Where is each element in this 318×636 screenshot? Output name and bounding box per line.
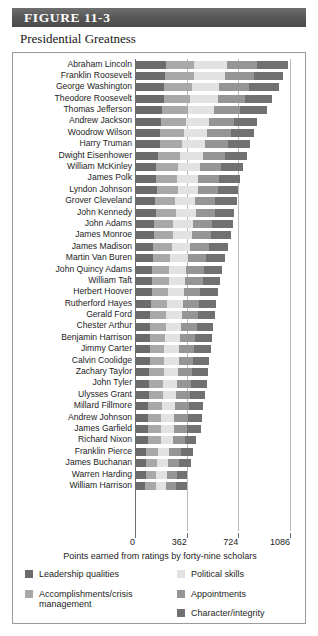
stacked-bar	[135, 231, 231, 239]
chart-row: Woodrow Wilson	[13, 127, 307, 138]
bar-segment	[188, 106, 214, 114]
legend-item: Accomplishments/crisis management	[25, 589, 161, 610]
chart-row: Millard Fillmore	[13, 401, 307, 412]
bar-segment	[185, 277, 202, 285]
bar-segment	[165, 72, 193, 80]
stacked-bar	[135, 448, 193, 456]
bar-segment	[135, 345, 150, 353]
bar-segment	[221, 163, 243, 171]
bar-segment	[178, 368, 193, 376]
bar-segment	[162, 402, 175, 410]
bar-segment	[188, 414, 202, 422]
bar-segment	[161, 414, 174, 422]
bar-segment	[135, 95, 164, 103]
bar-segment	[181, 448, 194, 456]
bar-segment	[257, 61, 288, 69]
bar-segment	[177, 471, 187, 479]
bar-segment	[135, 197, 155, 205]
row-label: Calvin Coolidge	[72, 355, 132, 366]
legend-label: Appointments	[191, 589, 246, 600]
bar-segment	[164, 345, 179, 353]
chart-row: John Tyler	[13, 378, 307, 389]
bar-segment	[191, 380, 206, 388]
bar-segment	[174, 425, 187, 433]
stacked-bar	[135, 334, 212, 342]
chart-row: Theodore Roosevelt	[13, 93, 307, 104]
row-label: Grover Cleveland	[65, 195, 132, 206]
stacked-bar	[135, 288, 218, 296]
bar-segment	[135, 414, 148, 422]
stacked-bar	[135, 459, 191, 467]
bar-segment	[215, 209, 234, 217]
bar-segment	[164, 368, 178, 376]
chart-row: Lyndon Johnson	[13, 184, 307, 195]
bar-segment	[176, 209, 196, 217]
bar-segment	[135, 288, 152, 296]
bar-segment	[184, 129, 207, 137]
bar-segment	[161, 436, 173, 444]
bar-segment	[135, 209, 156, 217]
stacked-bar	[135, 220, 233, 228]
bar-segment	[225, 152, 247, 160]
chart-row: Ulysses Grant	[13, 389, 307, 400]
bar-segment	[160, 129, 184, 137]
bar-segment	[190, 243, 209, 251]
bar-segment	[211, 231, 231, 239]
bar-segment	[148, 414, 161, 422]
bar-segment	[180, 334, 195, 342]
tick-label: 362	[172, 537, 188, 547]
stacked-bar	[135, 72, 283, 80]
bar-segment	[212, 220, 232, 228]
chart-row: James Buchanan	[13, 458, 307, 469]
stacked-bar	[135, 106, 267, 114]
stacked-bar	[135, 277, 220, 285]
bar-segment	[187, 425, 201, 433]
bar-segment	[150, 323, 165, 331]
chart-row: Chester Arthur	[13, 321, 307, 332]
bar-segment	[193, 357, 209, 365]
legend-swatch-icon	[177, 570, 185, 578]
chart-row: George Washington	[13, 82, 307, 93]
row-label: Andrew Johnson	[68, 412, 132, 423]
stacked-bar	[135, 197, 237, 205]
row-label: Gerald Ford	[86, 309, 132, 320]
bar-segment	[135, 83, 164, 91]
bar-segment	[190, 95, 218, 103]
bar-segment	[204, 266, 222, 274]
bar-segment	[205, 140, 228, 148]
bar-segment	[183, 300, 199, 308]
legend-label: Character/integrity	[191, 608, 265, 619]
bar-segment	[167, 300, 183, 308]
bar-segment	[198, 175, 219, 183]
bar-segment	[166, 311, 182, 319]
chart-row: James Madison	[13, 241, 307, 252]
bar-segment	[206, 254, 224, 262]
legend-swatch-icon	[25, 590, 33, 598]
bar-rows: Abraham LincolnFranklin RooseveltGeorge …	[13, 59, 307, 492]
bar-segment	[161, 425, 174, 433]
row-label: John Quincy Adams	[56, 264, 132, 275]
bar-segment	[135, 471, 146, 479]
bar-segment	[181, 323, 197, 331]
bar-segment	[135, 175, 156, 183]
chart-row: Grover Cleveland	[13, 196, 307, 207]
bar-segment	[154, 220, 173, 228]
bar-segment	[148, 436, 161, 444]
row-label: Dwight Eisenhower	[58, 150, 132, 161]
bar-segment	[135, 129, 160, 137]
bar-segment	[164, 95, 191, 103]
bar-segment	[179, 357, 194, 365]
bar-segment	[150, 357, 165, 365]
bar-segment	[182, 311, 198, 319]
figure-number-label: FIGURE 11-3	[24, 10, 110, 26]
row-label: John Kennedy	[77, 207, 132, 218]
bar-segment	[203, 152, 225, 160]
chart-row: Gerald Ford	[13, 310, 307, 321]
bar-segment	[151, 300, 167, 308]
x-axis-ticks: 03627241086	[135, 537, 295, 549]
row-label: Franklin Pierce	[75, 446, 132, 457]
bar-segment	[225, 72, 254, 80]
chart-row: Harry Truman	[13, 139, 307, 150]
row-label: Zachary Taylor	[76, 366, 132, 377]
bar-segment	[173, 436, 186, 444]
